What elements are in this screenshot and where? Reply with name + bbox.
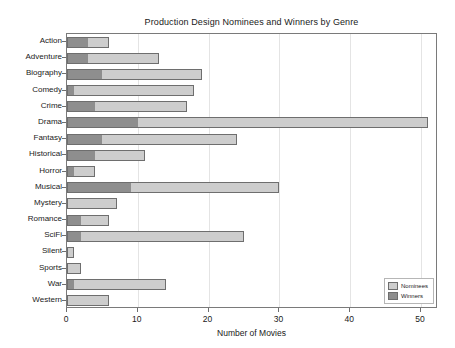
- y-axis-tick: [62, 90, 66, 91]
- y-axis-label: Romance: [4, 214, 62, 224]
- legend-swatch: [388, 282, 398, 290]
- bar-group: [67, 260, 437, 276]
- bar-segment-nominees: [95, 101, 187, 112]
- bar-segment-nominees: [88, 37, 109, 48]
- y-axis-label: Historical: [4, 149, 62, 159]
- bar-segment-nominees: [95, 150, 145, 161]
- x-axis-tick: [66, 308, 67, 312]
- bar-segment-nominees: [67, 295, 109, 306]
- bar-segment-winners: [67, 37, 88, 48]
- legend-item: Nominees: [388, 281, 430, 291]
- bar-group: [67, 34, 437, 50]
- y-axis-label: Crime: [4, 101, 62, 111]
- y-axis-label: Fantasy: [4, 133, 62, 143]
- y-axis-tick: [62, 73, 66, 74]
- bar-segment-nominees: [102, 69, 201, 80]
- x-axis-tick-label: 20: [203, 314, 212, 324]
- bar-segment-winners: [67, 150, 95, 161]
- y-axis-tick: [62, 187, 66, 188]
- bar-segment-nominees: [74, 279, 166, 290]
- bar-segment-winners: [67, 69, 102, 80]
- bar-segment-nominees: [81, 231, 244, 242]
- bar-segment-winners: [67, 101, 95, 112]
- y-axis-label: Horror: [4, 166, 62, 176]
- bar-segment-nominees: [102, 134, 237, 145]
- x-axis-tick: [137, 308, 138, 312]
- legend-swatch: [388, 292, 398, 300]
- bar-segment-winners: [67, 231, 81, 242]
- y-axis-tick: [62, 219, 66, 220]
- y-axis-tick: [62, 251, 66, 252]
- bar-segment-nominees: [88, 53, 159, 64]
- y-axis-label: Silent: [4, 246, 62, 256]
- bar-group: [67, 83, 437, 99]
- bar-segment-winners: [67, 53, 88, 64]
- x-axis-tick: [278, 308, 279, 312]
- y-axis-tick: [62, 235, 66, 236]
- bar-group: [67, 99, 437, 115]
- x-axis-tick: [420, 308, 421, 312]
- bar-group: [67, 180, 437, 196]
- y-axis-tick: [62, 106, 66, 107]
- bar-group: [67, 115, 437, 131]
- plot-area: [66, 33, 437, 308]
- bar-segment-winners: [67, 134, 102, 145]
- y-axis-tick: [62, 300, 66, 301]
- x-axis-tick: [349, 308, 350, 312]
- bar-group: [67, 212, 437, 228]
- y-axis-tick: [62, 284, 66, 285]
- y-axis-tick: [62, 268, 66, 269]
- bar-segment-nominees: [131, 182, 280, 193]
- x-axis-tick-label: 10: [132, 314, 141, 324]
- bar-segment-nominees: [67, 198, 117, 209]
- bar-segment-winners: [67, 215, 81, 226]
- y-axis-tick: [62, 171, 66, 172]
- y-axis-label: Biography: [4, 68, 62, 78]
- bar-segment-nominees: [67, 263, 81, 274]
- chart-legend: NomineesWinners: [384, 278, 434, 304]
- x-axis-title: Number of Movies: [66, 328, 437, 338]
- bar-segment-winners: [67, 85, 74, 96]
- bar-group: [67, 66, 437, 82]
- bar-segment-nominees: [81, 215, 109, 226]
- bar-segment-winners: [67, 166, 74, 177]
- bar-group: [67, 50, 437, 66]
- y-axis-label: Sports: [4, 263, 62, 273]
- y-axis-label: Action: [4, 36, 62, 46]
- bar-segment-nominees: [74, 85, 194, 96]
- y-axis-label: Musical: [4, 182, 62, 192]
- legend-item: Winners: [388, 291, 430, 301]
- y-axis-tick: [62, 41, 66, 42]
- chart-figure: Production Design Nominees and Winners b…: [0, 0, 455, 348]
- x-axis-tick: [208, 308, 209, 312]
- bar-group: [67, 244, 437, 260]
- bar-group: [67, 147, 437, 163]
- x-axis-tick-label: 50: [415, 314, 424, 324]
- y-axis-tick: [62, 138, 66, 139]
- bar-segment-nominees: [67, 247, 74, 258]
- bar-group: [67, 163, 437, 179]
- bar-segment-nominees: [138, 117, 428, 128]
- y-axis-label: Western: [4, 295, 62, 305]
- bar-segment-winners: [67, 117, 138, 128]
- legend-label: Nominees: [401, 283, 428, 289]
- x-axis-tick-label: 30: [274, 314, 283, 324]
- y-axis-label: Drama: [4, 117, 62, 127]
- y-axis-labels: ActionAdventureBiographyComedyCrimeDrama…: [0, 33, 62, 308]
- chart-title: Production Design Nominees and Winners b…: [66, 17, 437, 27]
- bar-segment-winners: [67, 182, 131, 193]
- bar-group: [67, 293, 437, 308]
- legend-label: Winners: [401, 293, 423, 299]
- y-axis-label: SciFi: [4, 230, 62, 240]
- x-axis-tick-label: 0: [64, 314, 69, 324]
- y-axis-label: Comedy: [4, 85, 62, 95]
- y-axis-label: Mystery: [4, 198, 62, 208]
- x-axis-tick-label: 40: [344, 314, 353, 324]
- bar-group: [67, 277, 437, 293]
- bar-group: [67, 131, 437, 147]
- y-axis-tick: [62, 122, 66, 123]
- bar-segment-nominees: [74, 166, 95, 177]
- y-axis-label: War: [4, 279, 62, 289]
- bar-group: [67, 228, 437, 244]
- y-axis-tick: [62, 57, 66, 58]
